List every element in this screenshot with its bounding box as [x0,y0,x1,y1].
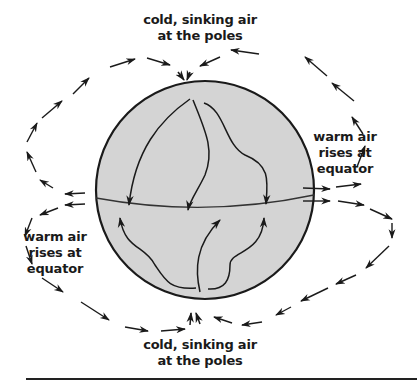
label-left-equator: warm air rises at equator [10,229,100,277]
label-line: warm air [10,229,100,245]
label-line: rises at [295,145,395,161]
label-line: rises at [10,245,100,261]
pole-arrows-bottom [190,313,200,325]
label-line: at the poles [115,353,285,369]
circulation-diagram [0,0,417,389]
label-bottom-pole: cold, sinking air at the poles [115,337,285,369]
label-line: equator [10,261,100,277]
label-top-pole: cold, sinking air at the poles [115,12,285,44]
label-line: cold, sinking air [115,12,285,28]
label-line: at the poles [115,28,285,44]
label-line: cold, sinking air [115,337,285,353]
label-line: equator [295,161,395,177]
label-right-equator: warm air rises at equator [295,129,395,177]
label-line: warm air [295,129,395,145]
bottom-rule-divider [26,378,417,380]
globe [96,81,314,299]
pole-arrows-top [178,72,190,80]
